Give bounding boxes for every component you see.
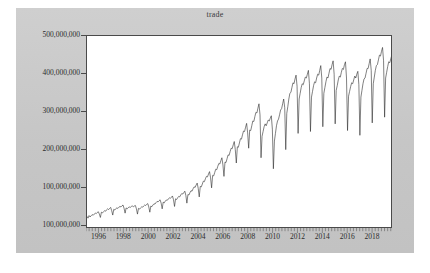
x-tick-label: 2000 [141,232,156,241]
y-tick-label: 500,000,000 [0,31,80,39]
trade-line-series [87,36,391,227]
x-tick-label: 2016 [340,232,355,241]
y-tick-label: 100,000,000 [0,221,80,229]
figure-background: trade 500,000,000 400,000,000 300,000,00… [16,8,414,253]
x-tick-label: 2014 [315,232,330,241]
y-tick-label: 400,000,000 [0,69,80,77]
x-tick-label: 2004 [190,232,205,241]
x-tick-label: 1996 [91,232,106,241]
y-tick-label: 200,000,000 [0,145,80,153]
series-polyline [87,47,391,218]
x-tick-label: 2008 [240,232,255,241]
plot-area [86,35,392,228]
x-tick-label: 1998 [116,232,131,241]
x-tick-label: 2006 [215,232,230,241]
chart-title: trade [16,9,414,21]
x-tick-label: 2012 [290,232,305,241]
y-tick-label: 100,000,000 [0,183,80,191]
x-tick-label: 2010 [265,232,280,241]
x-tick-label: 2002 [166,232,181,241]
y-tick-label: 300,000,000 [0,107,80,115]
x-tick-label: 2018 [365,232,380,241]
